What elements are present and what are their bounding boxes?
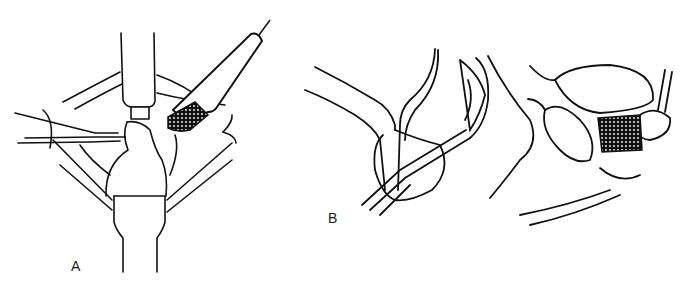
panel-b-right-drawing: [488, 56, 672, 225]
panel-label-b: B: [328, 210, 337, 226]
panel-b-mesh: [598, 115, 642, 152]
panel-a-drawing: [15, 33, 236, 272]
panel-a-catheter: [168, 20, 270, 131]
panel-b-left-drawing: [305, 49, 488, 215]
illustration: [0, 0, 698, 282]
panel-label-a: A: [71, 258, 80, 274]
